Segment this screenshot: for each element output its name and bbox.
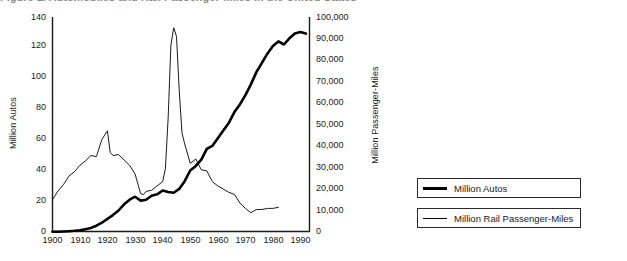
chart-plot-area: Million Autos Million Passenger-Miles 0 … <box>0 0 400 261</box>
series-line-rail-passenger-miles <box>52 28 278 213</box>
y-left-tick-120: 120 <box>18 41 46 50</box>
x-tick-1920: 1920 <box>92 236 123 245</box>
y-left-tick-140: 140 <box>18 13 46 22</box>
y-right-tick-70000: 70,000 <box>316 77 344 86</box>
line-swatch-thin-icon <box>423 213 447 223</box>
y-right-tick-10000: 10,000 <box>316 206 344 215</box>
x-tick-1900: 1900 <box>37 236 68 245</box>
y-right-tick-40000: 40,000 <box>316 141 344 150</box>
line-swatch-thick-icon <box>423 183 447 193</box>
right-axis-title: Million Passenger-Miles <box>370 50 380 180</box>
x-tick-1940: 1940 <box>147 236 178 245</box>
y-left-tick-80: 80 <box>18 103 46 112</box>
y-right-tick-0: 0 <box>316 227 321 236</box>
x-tick-1990: 1990 <box>285 236 316 245</box>
y-right-tick-100000: 100,000 <box>316 13 349 22</box>
legend-item-million-rail-passenger-miles[interactable]: Million Rail Passenger-Miles <box>417 208 581 228</box>
y-right-tick-80000: 80,000 <box>316 55 344 64</box>
legend-label-million-autos: Million Autos <box>454 183 507 194</box>
x-tick-1970: 1970 <box>230 236 261 245</box>
y-left-tick-60: 60 <box>18 134 46 143</box>
y-right-tick-50000: 50,000 <box>316 120 344 129</box>
series-line-million-autos <box>52 32 306 232</box>
legend-item-million-autos[interactable]: Million Autos <box>417 178 581 198</box>
x-tick-1950: 1950 <box>175 236 206 245</box>
y-left-tick-20: 20 <box>18 196 46 205</box>
y-right-tick-90000: 90,000 <box>316 34 344 43</box>
y-right-tick-30000: 30,000 <box>316 163 344 172</box>
y-right-tick-60000: 60,000 <box>316 98 344 107</box>
chart-page: Figure 1. Automobiles and Rail Passenger… <box>0 0 627 261</box>
y-left-tick-100: 100 <box>18 72 46 81</box>
legend-label-million-rail-passenger-miles: Million Rail Passenger-Miles <box>454 213 573 224</box>
y-right-tick-20000: 20,000 <box>316 184 344 193</box>
chart-legend: Million Autos Million Rail Passenger-Mil… <box>417 178 581 228</box>
left-axis-title: Million Autos <box>8 83 18 163</box>
y-left-tick-40: 40 <box>18 165 46 174</box>
